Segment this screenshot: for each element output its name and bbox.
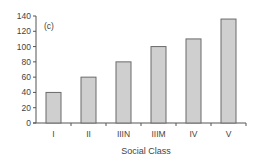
y-tick-label: 40: [22, 87, 32, 97]
y-tick-label: 120: [17, 26, 31, 36]
bar-i: [46, 92, 61, 123]
y-axis: 020406080100120140: [17, 11, 36, 128]
x-tick-label: IIIN: [117, 129, 130, 139]
y-tick-label: 60: [22, 72, 32, 82]
y-tick-label: 80: [22, 57, 32, 67]
y-tick-label: 20: [22, 103, 32, 113]
y-tick-label: 100: [17, 42, 31, 52]
bar-iiim: [151, 47, 166, 123]
x-tick-label: I: [52, 129, 54, 139]
x-tick-label: IIIM: [151, 129, 165, 139]
x-tick-label: IV: [189, 129, 197, 139]
y-tick-label: 140: [17, 11, 31, 21]
x-axis: IIIIIINIIIMIVV: [33, 123, 246, 139]
bar-v: [221, 19, 236, 123]
bar-iv: [186, 39, 201, 123]
panel-label: (c): [44, 21, 54, 31]
x-axis-title: Social Class: [121, 146, 171, 156]
bars: [46, 19, 236, 123]
bar-chart: 020406080100120140 IIIIIINIIIMIVV (c) So…: [0, 0, 256, 163]
x-tick-label: II: [86, 129, 91, 139]
x-tick-label: V: [226, 129, 232, 139]
y-tick-label: 0: [26, 118, 31, 128]
bar-ii: [81, 77, 96, 123]
bar-iiin: [116, 62, 131, 123]
